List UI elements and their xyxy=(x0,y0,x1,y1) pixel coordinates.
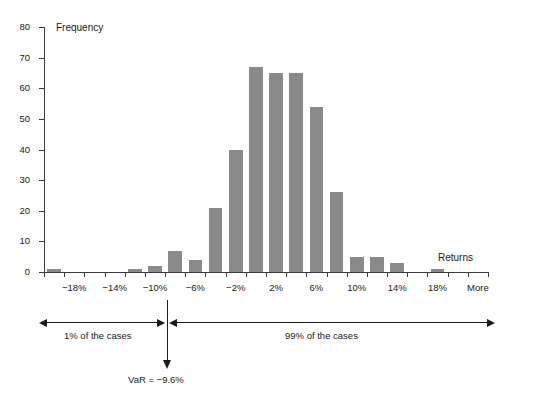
x-tick xyxy=(468,272,469,277)
y-tick-label: 0 xyxy=(6,267,30,277)
x-tick xyxy=(347,272,348,277)
y-tick-label: 60 xyxy=(6,83,30,93)
x-tick xyxy=(286,272,287,277)
right-span-arrow-left-icon xyxy=(169,319,177,327)
histogram-bar xyxy=(370,257,384,272)
histogram-bar xyxy=(249,67,263,272)
y-tick-label: 40 xyxy=(6,145,30,155)
y-tick-label: 50 xyxy=(6,114,30,124)
x-tick xyxy=(306,272,307,277)
histogram-bar xyxy=(229,150,243,273)
histogram-bar xyxy=(431,269,445,272)
histogram-bar xyxy=(168,251,182,272)
x-tick xyxy=(44,272,45,277)
histogram-bar xyxy=(189,260,203,272)
y-tick-label: 10 xyxy=(6,236,30,246)
y-tick-label: 30 xyxy=(6,175,30,185)
histogram-bar xyxy=(269,73,283,272)
x-tick-label: More xyxy=(453,283,503,293)
y-tick-label: 70 xyxy=(6,53,30,63)
histogram-bars xyxy=(44,27,488,272)
x-tick xyxy=(246,272,247,277)
right-span-line xyxy=(171,322,488,323)
x-tick xyxy=(165,272,166,277)
histogram-bar xyxy=(390,263,404,272)
histogram-bar xyxy=(209,208,223,272)
x-tick xyxy=(185,272,186,277)
x-tick xyxy=(84,272,85,277)
var-vertical-line xyxy=(167,300,168,362)
var-label: VaR = −9.6% xyxy=(128,374,184,385)
right-span-arrow-right-icon xyxy=(487,319,495,327)
histogram-bar xyxy=(310,107,324,272)
x-tick xyxy=(367,272,368,277)
x-tick xyxy=(266,272,267,277)
x-tick xyxy=(125,272,126,277)
x-tick xyxy=(448,272,449,277)
x-tick xyxy=(64,272,65,277)
histogram-bar xyxy=(128,269,142,272)
left-span-arrow-left-icon xyxy=(39,319,47,327)
right-span-label: 99% of the cases xyxy=(285,330,358,341)
histogram-bar xyxy=(47,269,61,272)
x-tick xyxy=(387,272,388,277)
histogram-bar xyxy=(330,192,344,272)
histogram-bar xyxy=(289,73,303,272)
left-span-arrow-right-icon xyxy=(157,319,165,327)
x-tick xyxy=(327,272,328,277)
x-tick xyxy=(205,272,206,277)
left-span-line xyxy=(46,322,164,323)
var-arrow-down-icon xyxy=(163,360,171,369)
x-tick xyxy=(105,272,106,277)
x-tick xyxy=(145,272,146,277)
histogram-bar xyxy=(350,257,364,272)
x-tick xyxy=(488,272,489,277)
left-span-label: 1% of the cases xyxy=(64,330,132,341)
y-tick-label: 20 xyxy=(6,206,30,216)
x-tick xyxy=(427,272,428,277)
x-tick xyxy=(226,272,227,277)
y-tick-label: 80 xyxy=(6,22,30,32)
var-histogram-figure: Frequency Returns 01020304050607080 −18%… xyxy=(0,0,538,398)
x-tick xyxy=(407,272,408,277)
histogram-bar xyxy=(148,266,162,272)
